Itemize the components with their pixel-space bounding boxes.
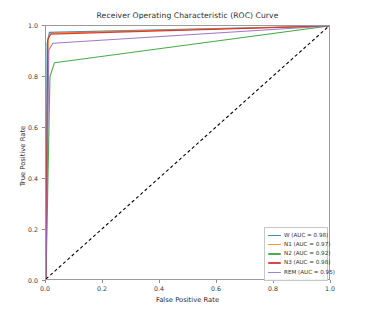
x-tick-mark bbox=[159, 280, 160, 283]
legend-item-n1[interactable]: N1 (AUC = 0.97) bbox=[268, 240, 324, 249]
x-tick-label: 0.8 bbox=[268, 285, 278, 292]
chart-title: Receiver Operating Characteristic (ROC) … bbox=[45, 11, 330, 20]
legend-color-swatch bbox=[268, 253, 281, 254]
roc-curve-figure: Receiver Operating Characteristic (ROC) … bbox=[0, 0, 369, 315]
x-axis-label: False Positive Rate bbox=[45, 296, 330, 304]
legend-color-swatch bbox=[268, 244, 281, 245]
x-tick-label: 0.6 bbox=[211, 285, 221, 292]
legend: W (AUC = 0.98)N1 (AUC = 0.97)N2 (AUC = 0… bbox=[264, 227, 328, 281]
legend-item-label: N1 (AUC = 0.97) bbox=[284, 242, 330, 248]
y-tick-label: 0.4 bbox=[28, 175, 38, 182]
y-tick-mark bbox=[42, 25, 45, 26]
y-tick-label: 0.0 bbox=[28, 277, 38, 284]
x-tick-mark bbox=[45, 280, 46, 283]
legend-item-label: N2 (AUC = 0.92) bbox=[284, 251, 330, 257]
y-tick-mark bbox=[42, 178, 45, 179]
legend-item-label: W (AUC = 0.98) bbox=[284, 233, 328, 239]
x-tick-mark bbox=[102, 280, 103, 283]
y-tick-label: 0.6 bbox=[28, 124, 38, 131]
x-tick-label: 1.0 bbox=[325, 285, 335, 292]
y-tick-mark bbox=[42, 280, 45, 281]
x-tick-mark bbox=[216, 280, 217, 283]
y-tick-label: 1.0 bbox=[28, 22, 38, 29]
x-tick-label: 0.0 bbox=[40, 285, 50, 292]
y-tick-mark bbox=[42, 76, 45, 77]
legend-item-label: N3 (AUC = 0.98) bbox=[284, 260, 330, 266]
legend-color-swatch bbox=[268, 262, 281, 263]
x-tick-label: 0.2 bbox=[97, 285, 107, 292]
y-tick-label: 0.8 bbox=[28, 73, 38, 80]
legend-item-rem[interactable]: REM (AUC = 0.95) bbox=[268, 268, 324, 277]
legend-color-swatch bbox=[268, 235, 281, 236]
legend-color-swatch bbox=[268, 272, 281, 273]
legend-item-n3[interactable]: N3 (AUC = 0.98) bbox=[268, 259, 324, 268]
x-tick-mark bbox=[330, 280, 331, 283]
legend-item-n2[interactable]: N2 (AUC = 0.92) bbox=[268, 249, 324, 258]
x-tick-label: 0.4 bbox=[154, 285, 164, 292]
y-tick-label: 0.2 bbox=[28, 226, 38, 233]
y-tick-mark bbox=[42, 127, 45, 128]
legend-item-label: REM (AUC = 0.95) bbox=[284, 270, 335, 276]
y-axis-label: True Positive Rate bbox=[19, 86, 27, 226]
legend-item-w[interactable]: W (AUC = 0.98) bbox=[268, 231, 324, 240]
y-tick-mark bbox=[42, 229, 45, 230]
